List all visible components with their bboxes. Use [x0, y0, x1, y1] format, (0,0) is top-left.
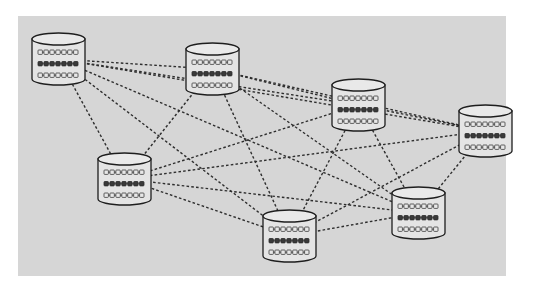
link-db1-db4	[59, 59, 486, 131]
database-node-db3[interactable]	[332, 79, 385, 131]
database-cylinder-icon	[98, 153, 151, 205]
database-cylinder-icon	[332, 79, 385, 131]
link-db3-db5	[125, 105, 359, 179]
link-db4-db6	[290, 131, 486, 236]
database-node-db6[interactable]	[263, 210, 316, 262]
database-node-db5[interactable]	[98, 153, 151, 205]
database-cylinder-icon	[392, 187, 445, 239]
link-db1-db6	[59, 59, 290, 236]
database-node-db2[interactable]	[186, 43, 239, 95]
database-node-db1[interactable]	[32, 33, 85, 85]
database-nodes	[32, 33, 512, 262]
database-node-db7[interactable]	[392, 187, 445, 239]
database-node-db4[interactable]	[459, 105, 512, 157]
database-cylinder-icon	[459, 105, 512, 157]
database-cylinder-icon	[263, 210, 316, 262]
database-cylinder-icon	[32, 33, 85, 85]
network-diagram	[0, 0, 546, 289]
database-cylinder-icon	[186, 43, 239, 95]
link-db4-db5	[125, 131, 486, 179]
